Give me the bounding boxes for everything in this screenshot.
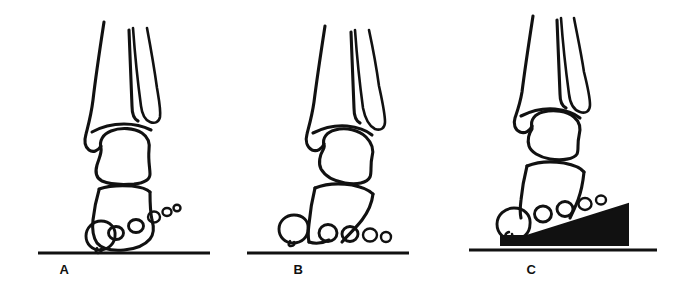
panel-c-label: C	[457, 262, 686, 278]
fibula-outline	[561, 18, 590, 113]
panel-b: B	[229, 0, 458, 296]
great-toe-outline	[279, 215, 308, 243]
toe-circle-4	[579, 198, 592, 210]
toe-circle-5	[381, 232, 391, 242]
panel-b-drawing	[229, 0, 458, 268]
figure-root: A	[0, 0, 686, 296]
toe-circle-5	[174, 205, 181, 211]
talus-outline	[320, 129, 373, 184]
panel-a-drawing	[0, 0, 229, 268]
fibula-outline	[355, 30, 385, 130]
panel-c-drawing	[457, 0, 686, 268]
toe-circle-4	[363, 229, 377, 242]
toe-circle-3	[557, 202, 573, 217]
panel-a-label: A	[0, 262, 229, 278]
fibula-outline	[133, 28, 160, 123]
toe-circle-2	[129, 220, 144, 233]
forefoot-outline	[308, 188, 315, 242]
navicular-outline	[315, 184, 373, 194]
toe-circle-3	[148, 212, 160, 223]
panel-c: C	[457, 0, 686, 296]
toe-circle-2	[535, 206, 552, 222]
talus-outline	[528, 111, 580, 160]
talus-outline	[96, 129, 150, 185]
navicular-outline	[527, 162, 584, 172]
toe-circle-5	[596, 196, 606, 205]
panel-b-label: B	[229, 262, 458, 278]
panel-a: A	[0, 0, 229, 296]
navicular-outline	[99, 186, 150, 192]
toe-circle-4	[163, 208, 172, 216]
